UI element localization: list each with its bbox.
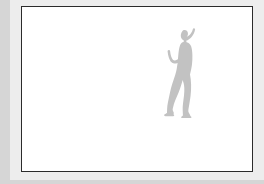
- woman-silhouette-svg: [164, 28, 202, 118]
- canvas-bottom-edge: [0, 180, 264, 184]
- canvas-left-edge: [0, 0, 10, 184]
- woman-silhouette-figure: [164, 28, 202, 118]
- thumbnail-canvas: [0, 0, 264, 184]
- picture-canvas: [22, 7, 252, 171]
- picture-frame[interactable]: [21, 6, 253, 172]
